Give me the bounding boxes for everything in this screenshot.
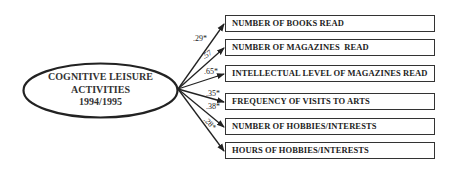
latent-year: 1994/1995 [23,96,178,109]
indicator-box-books: NUMBER OF BOOKS READ [225,15,435,32]
indicator-box-hobbies-number: NUMBER OF HOBBIES/INTERESTS [225,118,435,135]
indicator-box-hobbies-hours: HOURS OF HOBBIES/INTERESTS [225,142,435,159]
latent-variable-label: COGNITIVE LEISURE ACTIVITIES 1994/1995 [23,71,178,109]
loading-books: .29* [193,34,207,43]
loading-arts: .35* [206,89,220,98]
indicator-label: INTELLECTUAL LEVEL OF MAGAZINES READ [232,68,428,78]
loading-intellectual: .65* [204,67,218,76]
indicator-label: NUMBER OF MAGAZINES READ [232,42,369,52]
indicator-label: FREQUENCY OF VISITS TO ARTS [232,96,370,106]
loading-hobbies-number: .38* [206,102,220,111]
indicator-box-arts: FREQUENCY OF VISITS TO ARTS [225,93,435,110]
indicator-box-magazines: NUMBER OF MAGAZINES READ [225,39,435,56]
indicator-label: NUMBER OF HOBBIES/INTERESTS [232,121,377,131]
indicator-label: NUMBER OF BOOKS READ [232,18,344,28]
indicator-box-intellectual: INTELLECTUAL LEVEL OF MAGAZINES READ [225,65,435,82]
latent-title-line1: COGNITIVE LEISURE [23,71,178,84]
indicator-label: HOURS OF HOBBIES/INTERESTS [232,145,369,155]
path-diagram: COGNITIVE LEISURE ACTIVITIES 1994/1995 .… [0,0,460,173]
latent-title-line2: ACTIVITIES [23,84,178,97]
arrow-hobbies-hours [178,89,224,151]
arrow-intellectual [178,74,224,89]
